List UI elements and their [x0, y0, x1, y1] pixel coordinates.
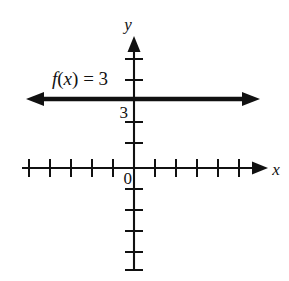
- y-axis-group: [125, 36, 143, 271]
- function-label: f(x) = 3: [52, 68, 108, 90]
- coordinate-plane-figure: y x 3 0 f(x) = 3: [0, 0, 289, 281]
- function-line-right-arrowhead-icon: [242, 92, 260, 106]
- y-axis-label: y: [122, 15, 132, 34]
- origin-label-0: 0: [124, 169, 133, 188]
- function-line-left-arrowhead-icon: [26, 92, 44, 106]
- y-intercept-label-3: 3: [120, 103, 129, 122]
- x-axis-group: [22, 159, 268, 177]
- x-axis-arrowhead-icon: [252, 162, 268, 175]
- function-line-group: [26, 92, 260, 106]
- function-label-equals: =: [78, 68, 98, 89]
- x-axis-label: x: [271, 160, 280, 179]
- graph-canvas: y x 3 0 f(x) = 3: [0, 0, 289, 281]
- function-label-value: 3: [99, 68, 109, 89]
- y-axis-arrowhead-icon: [128, 36, 141, 52]
